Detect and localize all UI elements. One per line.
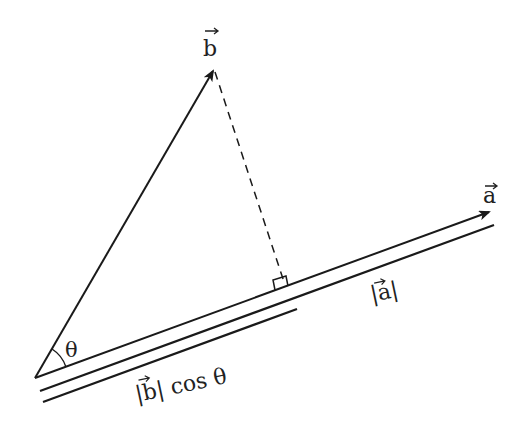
magnitude-a-line xyxy=(40,225,494,391)
vector-b-arrow xyxy=(35,71,213,378)
label-projection: |b| cos θ xyxy=(132,359,229,408)
label-vec-b: b xyxy=(203,28,218,61)
vector-a-arrow xyxy=(35,212,489,378)
svg-text:b: b xyxy=(203,36,217,61)
svg-text:a: a xyxy=(483,183,496,208)
theta-arc xyxy=(52,349,66,367)
vector-arrow-icon xyxy=(205,28,218,34)
label-magnitude-a: |a| xyxy=(368,276,401,308)
perpendicular-dashed-line xyxy=(215,72,284,282)
label-theta: θ xyxy=(65,338,78,362)
svg-text:|b| cos θ: |b| cos θ xyxy=(133,363,229,408)
label-vec-a: a xyxy=(483,183,497,208)
projection-diagram: b a θ |a| |b| cos θ xyxy=(0,0,530,441)
